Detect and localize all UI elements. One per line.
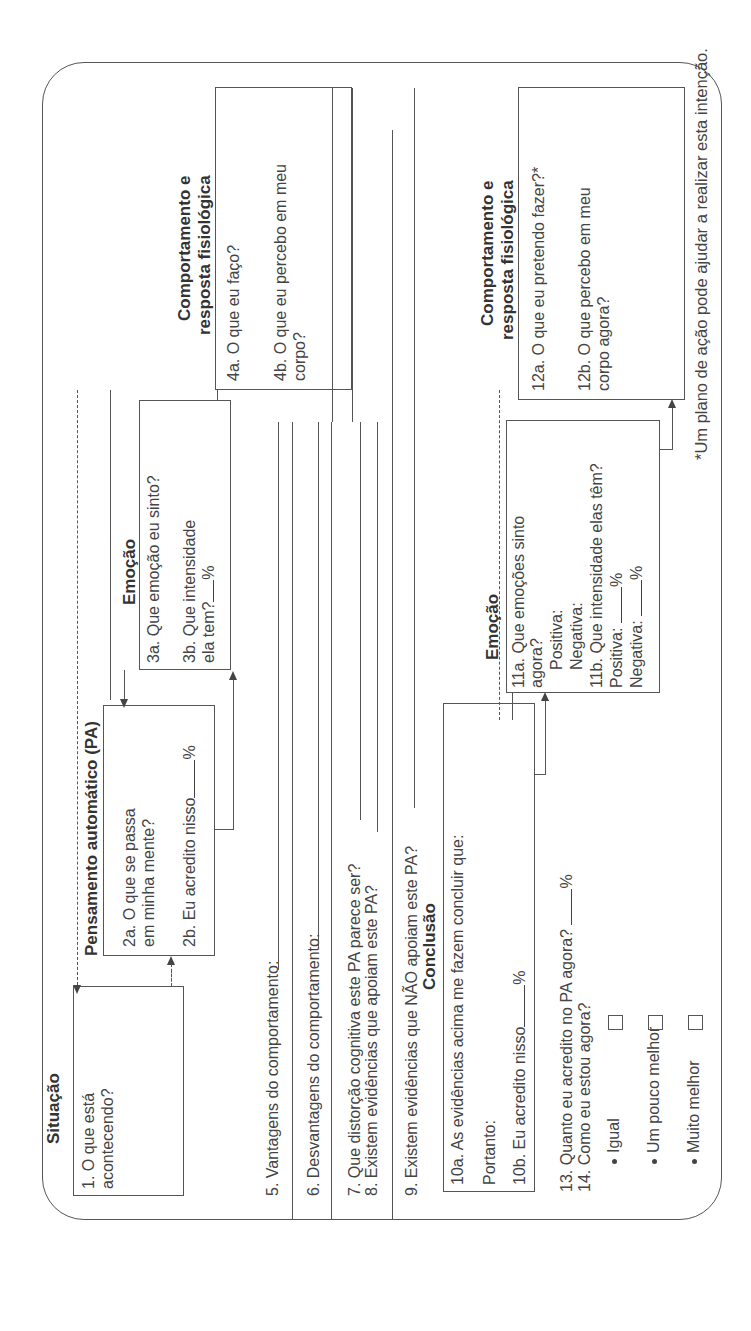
arrow-right-icon <box>668 399 676 408</box>
comportamento-title: Comportamento e resposta fisiológica <box>175 175 215 335</box>
q2b-label: 2b. Eu acredito nisso% <box>180 745 199 947</box>
comp2-conc-dashed-connector <box>499 390 500 720</box>
q10b-text: 10b. Eu acredito nisso <box>511 1027 528 1185</box>
option-igual-label: Igual <box>605 1118 622 1153</box>
checkbox-igual[interactable] <box>608 1015 623 1030</box>
option-um-pouco-melhor: Um pouco melhor <box>644 1027 663 1164</box>
q9-answer-line-1[interactable] <box>414 88 415 808</box>
comportamento-title-line1: Comportamento e <box>175 175 195 335</box>
q6-answer-line-2[interactable] <box>331 422 332 1220</box>
comportamento2-title: Comportamento e resposta fisiológica <box>478 180 518 340</box>
situacao-title: Situação <box>44 1073 64 1144</box>
q1-label: 1. O que está <box>79 1093 98 1189</box>
q11a-label: 11a. Que emoções sinto <box>509 516 528 688</box>
connector-situacao-pa-h <box>171 964 172 986</box>
comportamento2-title-line2: resposta fisiológica <box>498 180 518 340</box>
comportamento-title-line2: resposta fisiológica <box>195 175 215 335</box>
footnote: *Um plano de ação pode ajudar a realizar… <box>692 48 711 460</box>
q11b-positiva-unit: % <box>608 573 625 587</box>
arrow-left-icon <box>120 699 128 708</box>
q14-label: 14. Como eu estou agora? <box>575 1003 594 1192</box>
q11b-negativa-blank[interactable] <box>627 580 642 616</box>
q10b-unit: % <box>511 970 528 984</box>
q2b-unit: % <box>181 745 198 759</box>
pa-emocao-connector-v <box>215 829 233 830</box>
emocao2-title: Emoção <box>483 594 503 660</box>
emocao-box[interactable]: 3a. Que emoção eu sinto? 3b. Que intensi… <box>139 400 231 670</box>
q2b-blank[interactable] <box>180 760 195 798</box>
q13-unit: % <box>558 874 575 888</box>
q4b-label: 4b. O que eu percebo em meu <box>271 164 290 381</box>
comportamento2-box[interactable]: 12a. O que eu pretendo fazer?* 12b. O qu… <box>518 87 685 400</box>
q4a-label: 4a. O que eu faço? <box>224 245 243 381</box>
q3b-unit: % <box>200 565 217 579</box>
q13-label: 13. Quanto eu acredito no PA agora? % <box>557 874 576 1192</box>
q6-answer-line-1[interactable] <box>318 422 319 948</box>
emo2-comp2-connector-v <box>660 449 672 450</box>
q3b-text: ela tem? <box>200 602 217 663</box>
checkbox-muito-melhor[interactable] <box>688 1015 703 1030</box>
q8-label: 8. Existem evidências que apoiam este PA… <box>362 885 381 1196</box>
q1-label-cont: acontecendo? <box>98 1088 117 1189</box>
pa-title: Pensamento automático (PA) <box>82 721 102 956</box>
q9-label: 9. Existem evidências que NÃO apoiam est… <box>402 846 421 1196</box>
emocao2-box[interactable]: 11a. Que emoções sinto agora? Positiva: … <box>506 420 660 693</box>
emocao-title: Emoção <box>120 539 140 605</box>
q4b-label-cont: corpo? <box>290 332 309 381</box>
portanto-label: Portanto: <box>480 1120 499 1185</box>
bullet-icon <box>652 1159 657 1164</box>
comp-pa-connector-h <box>110 390 111 700</box>
q3b-label: 3b. Que intensidade <box>180 520 199 663</box>
q11b-positiva-text: Positiva: <box>608 628 625 688</box>
situacao-box[interactable]: 1. O que está acontecendo? <box>73 986 184 1196</box>
emo2-comp2-connector-h <box>672 408 673 450</box>
option-um-pouco-melhor-label: Um pouco melhor <box>645 1027 662 1153</box>
arrow-left-icon <box>73 985 81 994</box>
q10a-label: 10a. As evidências acima me fazem conclu… <box>448 835 467 1185</box>
q11a-positiva: Positiva: <box>547 610 566 670</box>
conclusao-title: Conclusão <box>420 903 440 990</box>
q11a-label-cont: agora? <box>527 638 546 688</box>
q13-blank[interactable] <box>557 889 572 925</box>
emocao-pa-connector-h <box>124 670 125 700</box>
q12a-label: 12a. O que eu pretendo fazer?* <box>529 167 548 391</box>
q10b-blank[interactable] <box>510 985 525 1027</box>
q2a-label: 2a. O que se passa <box>120 808 139 947</box>
bullet-icon <box>612 1159 617 1164</box>
q3a-label: 3a. Que emoção eu sinto? <box>144 475 163 663</box>
q8-answer-line-1[interactable] <box>377 422 378 832</box>
option-muito-melhor-label: Muito melhor <box>685 1061 702 1153</box>
comp-situacao-dashed-connector <box>77 390 78 985</box>
q11b-negativa: Negativa: % <box>627 566 646 688</box>
q3b-blank[interactable] <box>199 580 214 602</box>
q5-label: 5. Vantagens do comportamento: <box>263 961 282 1196</box>
q5-answer-line-1[interactable] <box>278 422 279 970</box>
arrow-right-icon <box>229 671 237 680</box>
q10b-label: 10b. Eu acredito nisso% <box>510 970 529 1185</box>
q12b-label: 12b. O que percebo em meu <box>575 187 594 391</box>
long-answer-line-a[interactable] <box>332 88 333 422</box>
q2b-text: 2b. Eu acredito nisso <box>181 798 198 947</box>
bullet-icon <box>692 1159 697 1164</box>
q11b-positiva-blank[interactable] <box>607 587 622 623</box>
q11b-positiva: Positiva: % <box>607 573 626 688</box>
q8-answer-line-2[interactable] <box>392 130 393 1220</box>
checkbox-um-pouco-melhor[interactable] <box>648 1015 663 1030</box>
comportamento2-title-line1: Comportamento e <box>478 180 498 340</box>
cbt-worksheet-page: Situação 1. O que está acontecendo? Pens… <box>42 62 722 1220</box>
q6-label: 6. Desvantagens do comportamento: <box>304 934 323 1196</box>
q13-text: 13. Quanto eu acredito no PA agora? <box>558 929 575 1192</box>
arrow-right-icon <box>541 692 549 701</box>
q5-answer-line-2[interactable] <box>292 422 293 1220</box>
conclusao-box[interactable]: 10a. As evidências acima me fazem conclu… <box>443 703 535 1192</box>
long-answer-line-b[interactable] <box>352 88 353 422</box>
q3b-label-cont: ela tem?% <box>199 565 218 663</box>
pa-emocao-connector-h <box>233 680 234 830</box>
q2a-label-cont: em minha mente? <box>139 819 158 947</box>
emo2-conc-connector <box>512 693 513 720</box>
option-muito-melhor: Muito melhor <box>684 1061 703 1164</box>
q7-answer-line[interactable] <box>360 422 361 820</box>
q11b-negativa-text: Negativa: <box>628 620 645 688</box>
pa-box[interactable]: 2a. O que se passa em minha mente? 2b. E… <box>103 705 215 956</box>
q11a-negativa: Negativa: <box>567 602 586 670</box>
